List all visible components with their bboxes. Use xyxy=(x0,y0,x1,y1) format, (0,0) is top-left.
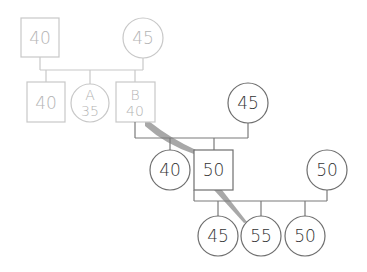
gen1-connectors xyxy=(40,57,143,84)
gen1-father[interactable]: 40 xyxy=(21,18,59,57)
node-age: 45 xyxy=(207,226,229,246)
node-name: A xyxy=(85,87,95,103)
gen3-daughter[interactable]: 40 xyxy=(150,150,190,190)
node-age: 55 xyxy=(250,226,272,246)
gen2-sibling-a[interactable]: A 35 xyxy=(71,84,109,122)
gen2-spouse[interactable]: 45 xyxy=(228,83,268,123)
node-age: 35 xyxy=(81,103,99,119)
gen2-sibling1[interactable]: 40 xyxy=(27,82,65,122)
gen4-child-3[interactable]: 50 xyxy=(285,216,325,256)
genogram-diagram: 40 45 40 A 35 B 40 45 40 50 xyxy=(0,0,367,272)
node-age: 45 xyxy=(132,28,154,48)
node-age: 40 xyxy=(29,28,51,48)
gen4-child-2[interactable]: 55 xyxy=(241,216,281,256)
node-age: 40 xyxy=(126,103,144,119)
node-age: 50 xyxy=(316,160,338,180)
node-age: 50 xyxy=(203,160,225,180)
node-age: 40 xyxy=(159,160,181,180)
gen3-son[interactable]: 50 xyxy=(194,150,233,190)
node-name: B xyxy=(130,87,139,103)
gen3-connectors xyxy=(194,190,327,216)
gen2-sibling-b[interactable]: B 40 xyxy=(116,82,155,122)
gen3-spouse[interactable]: 50 xyxy=(307,150,347,190)
gen4-child-1[interactable]: 45 xyxy=(198,216,238,256)
node-age: 50 xyxy=(294,226,316,246)
node-age: 45 xyxy=(237,93,259,113)
node-age: 40 xyxy=(35,93,57,113)
gen1-mother[interactable]: 45 xyxy=(123,18,163,58)
